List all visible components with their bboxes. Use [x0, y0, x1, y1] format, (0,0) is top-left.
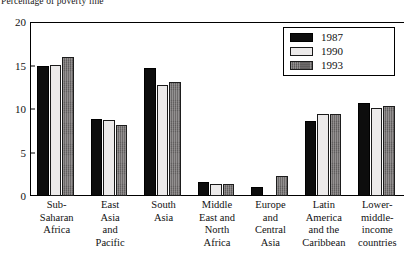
- bar-1993: [62, 57, 74, 196]
- x-axis-label-line: income: [351, 224, 404, 237]
- x-axis-label: LatinAmericaand theCaribbean: [297, 199, 350, 249]
- bar-1987: [251, 187, 263, 196]
- x-axis-label-line: Europe: [244, 199, 297, 212]
- bar-1993: [383, 106, 395, 196]
- bar-1987: [198, 182, 210, 196]
- legend-row: 1987: [284, 30, 394, 44]
- poverty-line-bar-chart: Percentage of poverty line 05101520 1987…: [0, 0, 407, 256]
- bar-1993: [169, 82, 181, 196]
- chart-legend: 198719901993: [283, 27, 395, 76]
- bar-1993: [223, 184, 235, 196]
- x-axis-label-line: Saharan: [30, 212, 83, 225]
- legend-swatch-1987: [290, 33, 313, 42]
- legend-swatch-1990: [290, 47, 313, 56]
- x-axis-label: Lower-middle-incomecountries: [351, 199, 404, 249]
- x-axis-label: Sub-SaharanAfrica: [30, 199, 83, 237]
- bar-1990: [50, 65, 62, 196]
- x-axis-label-line: Pacific: [83, 237, 136, 250]
- y-axis-tick-label: 20: [0, 17, 26, 28]
- x-axis-label-line: and the: [297, 224, 350, 237]
- bar-1987: [144, 68, 156, 196]
- x-axis-label: MiddleEast andNorthAfrica: [190, 199, 243, 249]
- x-axis-label-line: Africa: [30, 224, 83, 237]
- y-axis-tick-label: 15: [0, 60, 26, 71]
- x-axis-label: EuropeandCentralAsia: [244, 199, 297, 249]
- legend-swatch-1993: [290, 61, 313, 70]
- bar-1993: [116, 125, 128, 196]
- legend-label: 1990: [321, 46, 343, 57]
- x-axis-label-line: Caribbean: [297, 237, 350, 250]
- bar-1990: [103, 120, 115, 196]
- bar-1993: [276, 176, 288, 196]
- bar-1990: [317, 114, 329, 196]
- x-axis-label-line: Asia: [137, 212, 190, 225]
- bar-1987: [91, 119, 103, 196]
- x-axis-label-line: South: [137, 199, 190, 212]
- x-axis-label-line: East: [83, 199, 136, 212]
- x-axis-category-labels: Sub-SaharanAfricaEastAsiaandPacificSouth…: [30, 199, 404, 256]
- bar-group: [83, 22, 136, 196]
- bar-1990: [157, 85, 169, 196]
- x-axis-label-line: middle-: [351, 212, 404, 225]
- x-axis-label-line: America: [297, 212, 350, 225]
- x-axis-label-line: Asia: [244, 237, 297, 250]
- x-axis-label-line: Asia: [83, 212, 136, 225]
- bar-1990: [210, 184, 222, 196]
- bar-1987: [358, 103, 370, 196]
- y-axis-tick-label: 5: [0, 147, 26, 158]
- bar-1993: [330, 114, 342, 196]
- y-axis-tick-label: 10: [0, 104, 26, 115]
- y-axis-tick-label: 0: [0, 191, 26, 202]
- legend-row: 1990: [284, 44, 394, 58]
- x-axis-label-line: and: [244, 212, 297, 225]
- legend-label: 1987: [321, 32, 343, 43]
- x-axis-label-line: Middle: [190, 199, 243, 212]
- x-axis-label: EastAsiaandPacific: [83, 199, 136, 249]
- x-axis-label-line: Central: [244, 224, 297, 237]
- x-axis-label-line: Latin: [297, 199, 350, 212]
- x-axis-label-line: Lower-: [351, 199, 404, 212]
- bar-1987: [37, 66, 49, 197]
- bar-group: [190, 22, 243, 196]
- x-axis-label-line: and: [83, 224, 136, 237]
- bar-1987: [305, 121, 317, 196]
- bar-group: [137, 22, 190, 196]
- x-axis-label-line: East and: [190, 212, 243, 225]
- x-axis-label-line: Sub-: [30, 199, 83, 212]
- x-axis-label: SouthAsia: [137, 199, 190, 224]
- bar-1990: [371, 108, 383, 196]
- x-axis-label-line: North: [190, 224, 243, 237]
- chart-axis-title: Percentage of poverty line: [1, 0, 104, 7]
- bar-group: [30, 22, 83, 196]
- x-axis-label-line: Africa: [190, 237, 243, 250]
- x-axis-label-line: countries: [351, 237, 404, 250]
- legend-label: 1993: [321, 60, 343, 71]
- legend-row: 1993: [284, 58, 394, 72]
